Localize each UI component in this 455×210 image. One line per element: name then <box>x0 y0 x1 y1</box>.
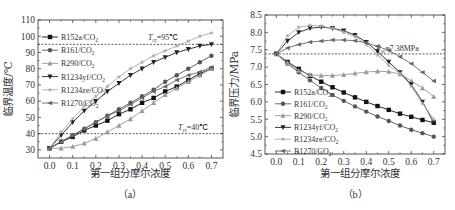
marker-circle-icon <box>48 48 52 52</box>
chart-panel-b: 0.00.10.20.30.40.50.60.74.55.05.56.06.57… <box>228 0 455 210</box>
marker-left-triangle-icon <box>307 40 312 44</box>
y-tick-label: 7.0 <box>250 62 262 72</box>
legend-label: R1270/CO2 <box>61 99 99 109</box>
marker-circle-icon <box>375 114 379 118</box>
marker-left-triangle-icon <box>47 101 52 105</box>
marker-circle-icon <box>209 54 213 58</box>
marker-square-icon <box>387 108 391 112</box>
marker-circle-icon <box>175 73 179 77</box>
marker-triangle-down-icon <box>140 67 145 72</box>
marker-square-icon <box>281 90 285 94</box>
y-tick-label: 50 <box>26 113 36 123</box>
marker-left-triangle-icon <box>330 38 335 42</box>
y-tick-label: 5.0 <box>250 132 262 142</box>
marker-triangle-down-icon <box>296 30 301 35</box>
y-tick-label: 100 <box>21 32 36 42</box>
legend-label: R161/CO2 <box>61 46 95 56</box>
legend-label: R1234ze/CO2 <box>294 135 339 145</box>
marker-triangle-up-icon <box>116 123 121 128</box>
marker-triangle-up-icon <box>93 136 98 141</box>
marker-triangle-up-icon <box>420 85 425 90</box>
marker-square-icon <box>342 90 346 94</box>
y-axis-label: 临界温度/℃ <box>2 61 14 117</box>
x-tick-label: 0.7 <box>206 161 218 171</box>
marker-triangle-down-icon <box>116 81 121 86</box>
reference-annotation: Tcr=40℃ <box>178 123 208 133</box>
marker-left-triangle-icon <box>341 38 346 42</box>
marker-square-icon <box>364 100 368 104</box>
marker-square-icon <box>140 101 144 105</box>
y-axis-label: 临界压力/MPa <box>228 51 240 118</box>
legend-label: R152a/CO2 <box>294 88 331 98</box>
marker-circle-icon <box>281 102 285 106</box>
chart-a-xlabel: 第一组分摩尔浓度 <box>60 165 200 180</box>
reference-annotation: Tcr=95℃ <box>148 33 178 43</box>
x-tick-label: 0.0 <box>44 161 56 171</box>
marker-left-triangle-icon <box>319 39 324 43</box>
marker-star-icon <box>285 33 290 38</box>
reference-annotation: Pcr=7.38MPa <box>375 44 419 54</box>
marker-left-triangle-icon <box>162 84 167 88</box>
marker-triangle-up-icon <box>431 94 436 99</box>
marker-circle-icon <box>387 119 391 123</box>
marker-square-icon <box>319 80 323 84</box>
marker-star-icon <box>163 48 168 53</box>
y-tick-label: 8.5 <box>250 10 262 20</box>
y-tick-label: 80 <box>26 64 36 74</box>
legend-label: R1270/CO2 <box>294 147 332 157</box>
marker-left-triangle-icon <box>296 42 301 46</box>
chart-a-caption: （a） <box>100 186 160 201</box>
marker-circle-icon <box>364 109 368 113</box>
y-tick-label: 70 <box>26 80 36 90</box>
y-tick-label: 30 <box>26 145 36 155</box>
marker-left-triangle-icon <box>352 39 357 43</box>
y-tick-label: 8.0 <box>250 28 262 38</box>
marker-circle-icon <box>163 79 167 83</box>
marker-triangle-up-icon <box>105 129 110 134</box>
chart-b-xlabel: 第一组分摩尔浓度 <box>290 165 430 180</box>
marker-square-icon <box>330 85 334 89</box>
legend-label: R1234ze/CO2 <box>61 86 106 96</box>
marker-circle-icon <box>432 134 436 138</box>
legend-label: R290/CO2 <box>294 112 328 122</box>
y-tick-label: 90 <box>26 48 36 58</box>
marker-square-icon <box>353 95 357 99</box>
marker-left-triangle-icon <box>280 149 285 153</box>
marker-star-icon <box>186 39 191 44</box>
marker-circle-icon <box>353 104 357 108</box>
marker-square-icon <box>151 96 155 100</box>
legend-label: R161/CO2 <box>294 100 328 110</box>
chart-panel-a: 0.00.10.20.30.40.50.60.73040506070809010… <box>0 0 228 210</box>
x-tick-label: 0.0 <box>270 157 282 167</box>
marker-circle-icon <box>186 67 190 71</box>
y-tick-label: 6.0 <box>250 97 262 107</box>
marker-square-icon <box>398 111 402 115</box>
y-tick-label: 110 <box>21 15 35 25</box>
marker-circle-icon <box>398 123 402 127</box>
y-tick-label: 7.5 <box>250 45 262 55</box>
marker-circle-icon <box>420 131 424 135</box>
marker-triangle-down-icon <box>151 60 156 65</box>
y-tick-label: 6.5 <box>250 80 262 90</box>
legend: R152a/CO2R161/CO2R290/CO2R1234yf/CO2R123… <box>275 88 339 157</box>
y-tick-label: 5.5 <box>250 115 262 125</box>
marker-square-icon <box>128 107 132 111</box>
chart-b-caption: （b） <box>325 186 385 201</box>
marker-triangle-up-icon <box>151 100 156 105</box>
y-tick-label: 4.5 <box>250 149 262 159</box>
legend-label: R290/CO2 <box>61 59 95 69</box>
marker-square-icon <box>105 118 109 122</box>
marker-square-icon <box>409 115 413 119</box>
marker-square-icon <box>420 118 424 122</box>
marker-triangle-up-icon <box>128 116 133 121</box>
marker-circle-icon <box>342 99 346 103</box>
legend-label: R1234yf/CO2 <box>61 73 105 83</box>
legend-label: R1234yf/CO2 <box>294 123 338 133</box>
marker-star-icon <box>209 30 214 35</box>
legend-label: R152a/CO2 <box>61 33 98 43</box>
marker-square-icon <box>48 35 52 39</box>
y-tick-label: 60 <box>26 96 36 106</box>
marker-circle-icon <box>409 127 413 131</box>
marker-circle-icon <box>308 78 312 82</box>
marker-triangle-up-icon <box>140 108 145 113</box>
